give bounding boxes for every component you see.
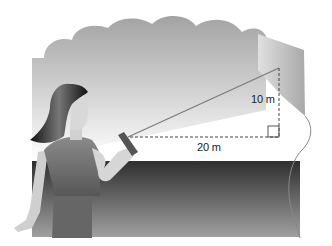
illustration	[0, 0, 332, 246]
horizontal-length-label: 20 m	[197, 141, 221, 153]
vertical-length-label: 10 m	[251, 93, 275, 105]
kite-diagram: 10 m 20 m	[0, 0, 332, 246]
right-angle-marker	[268, 126, 279, 137]
